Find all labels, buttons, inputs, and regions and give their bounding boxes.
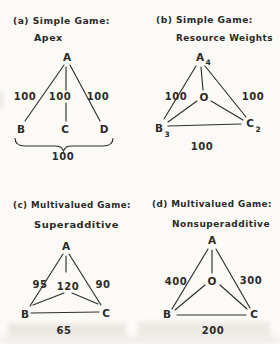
node-c-label: C	[102, 307, 110, 319]
edge-right-weight: 100	[242, 91, 264, 102]
panel-a-caption-line1: (a) Simple Game:	[13, 15, 110, 26]
scan-smudge	[0, 336, 280, 344]
panel-b-caption-line1: (b) Simple Game:	[156, 14, 253, 25]
node-center-label: O	[208, 275, 217, 287]
edge-a-c-weight: 100	[49, 91, 71, 102]
edge-a-b-weight: 100	[14, 91, 36, 102]
panel-c-caption-line2: Superadditive	[34, 219, 119, 230]
brace-value-label: 100	[52, 151, 74, 162]
node-b-label: B	[163, 308, 171, 320]
node-a-label: A	[62, 240, 71, 252]
panel-a: (a) Simple Game: Apex A B C D 100 100 10…	[13, 15, 113, 162]
node-c-subscript: 2	[255, 125, 260, 134]
scan-smudge	[0, 92, 3, 108]
spoke-c-center-line	[211, 101, 243, 120]
panel-a-caption-line2: Apex	[34, 32, 63, 43]
edge-b-c-line	[168, 124, 241, 126]
node-center-label: O	[200, 91, 209, 103]
node-c-label: C	[250, 308, 258, 320]
node-d-label: D	[100, 123, 109, 135]
node-b-subscript: 3	[164, 130, 169, 139]
node-c-label: C	[246, 117, 254, 129]
edge-right-weight: 300	[240, 275, 262, 286]
panel-b: (b) Simple Game: Resource Weights A 4 O …	[155, 14, 273, 152]
spoke-c-center-line	[220, 285, 247, 309]
edge-bottom-weight: 100	[191, 141, 213, 152]
node-c-label: C	[61, 123, 69, 135]
panel-c: (c) Multivalued Game: Superadditive A B …	[13, 199, 131, 336]
edge-left-weight: 400	[165, 276, 187, 287]
center-value-label: 120	[57, 281, 79, 292]
panel-d: (d) Multivalued Game: Nonsuperadditive A…	[152, 198, 272, 336]
node-a-subscript: 4	[205, 58, 210, 67]
panel-b-caption-line2: Resource Weights	[176, 32, 273, 43]
panel-d-caption-line2: Nonsuperadditive	[172, 218, 270, 229]
edge-a-d-weight: 100	[87, 91, 109, 102]
node-a-label: A	[63, 51, 72, 63]
node-a-label: A	[196, 51, 205, 63]
figure-page: (a) Simple Game: Apex A B C D 100 100 10…	[0, 0, 280, 344]
underbrace	[15, 138, 113, 151]
node-b-label: B	[155, 122, 163, 134]
figure-canvas: (a) Simple Game: Apex A B C D 100 100 10…	[0, 0, 280, 344]
edge-right-weight: 90	[96, 279, 111, 290]
panel-c-caption-line1: (c) Multivalued Game:	[13, 199, 131, 210]
node-a-label: A	[208, 234, 217, 246]
edge-bottom-weight: 200	[202, 325, 224, 336]
panel-d-caption-line1: (d) Multivalued Game:	[152, 198, 272, 209]
edge-bottom-weight: 65	[57, 325, 72, 336]
spoke-a-center-line	[201, 67, 203, 90]
edge-left-weight: 100	[165, 91, 187, 102]
node-b-label: B	[17, 123, 25, 135]
edge-b-c-line	[31, 312, 99, 313]
node-b-label: B	[21, 308, 29, 320]
edge-left-weight: 95	[33, 279, 48, 290]
